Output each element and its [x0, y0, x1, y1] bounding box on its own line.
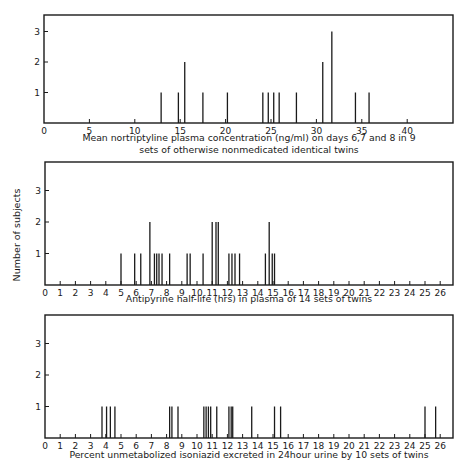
x-tick-label: 25: [419, 288, 430, 298]
y-axis-title: Number of subjects: [11, 189, 22, 282]
x-tick-label: 1: [57, 441, 63, 451]
x-tick-label: 1: [57, 288, 63, 298]
y-tick-label: 2: [35, 217, 41, 227]
x-axis-caption: Mean nortriptyline plasma concentration …: [82, 132, 415, 143]
x-tick-label: 4: [103, 288, 109, 298]
y-tick-label: 3: [35, 339, 41, 349]
y-tick-label: 3: [34, 27, 40, 37]
x-tick-label: 3: [88, 288, 94, 298]
x-tick-label: 22: [374, 288, 385, 298]
y-tick-label: 1: [34, 88, 40, 98]
chart-antipyrine: 0123456789101112131415161718192021222324…: [35, 162, 453, 304]
y-tick-label: 1: [35, 249, 41, 259]
x-tick-label: 0: [41, 126, 47, 136]
x-tick-label: 2: [73, 288, 79, 298]
y-tick-label: 3: [35, 186, 41, 196]
x-tick-label: 0: [42, 288, 48, 298]
x-axis-caption: Antipyrine half-life (hrs) in plasma of …: [126, 293, 373, 304]
plot-frame: [44, 15, 453, 123]
x-tick-label: 0: [42, 441, 48, 451]
y-tick-label: 1: [35, 402, 41, 412]
chart-isoniazid: 0123456789101112131415161718192021222324…: [35, 315, 453, 460]
x-tick-label: 24: [404, 288, 416, 298]
y-tick-label: 2: [35, 370, 41, 380]
x-axis-caption: sets of otherwise nonmedicated identical…: [139, 144, 359, 155]
x-tick-label: 26: [434, 288, 446, 298]
y-tick-label: 2: [34, 57, 40, 67]
x-tick-label: 5: [118, 288, 124, 298]
x-axis-caption: Percent unmetabolized isoniazid excreted…: [69, 449, 428, 460]
plot-frame: [45, 162, 453, 285]
chart-nortriptyline: 0510152025303540123Mean nortriptyline pl…: [34, 15, 453, 155]
x-tick-label: 26: [434, 441, 446, 451]
x-tick-label: 23: [389, 288, 400, 298]
figure: 0510152025303540123Mean nortriptyline pl…: [0, 0, 470, 475]
